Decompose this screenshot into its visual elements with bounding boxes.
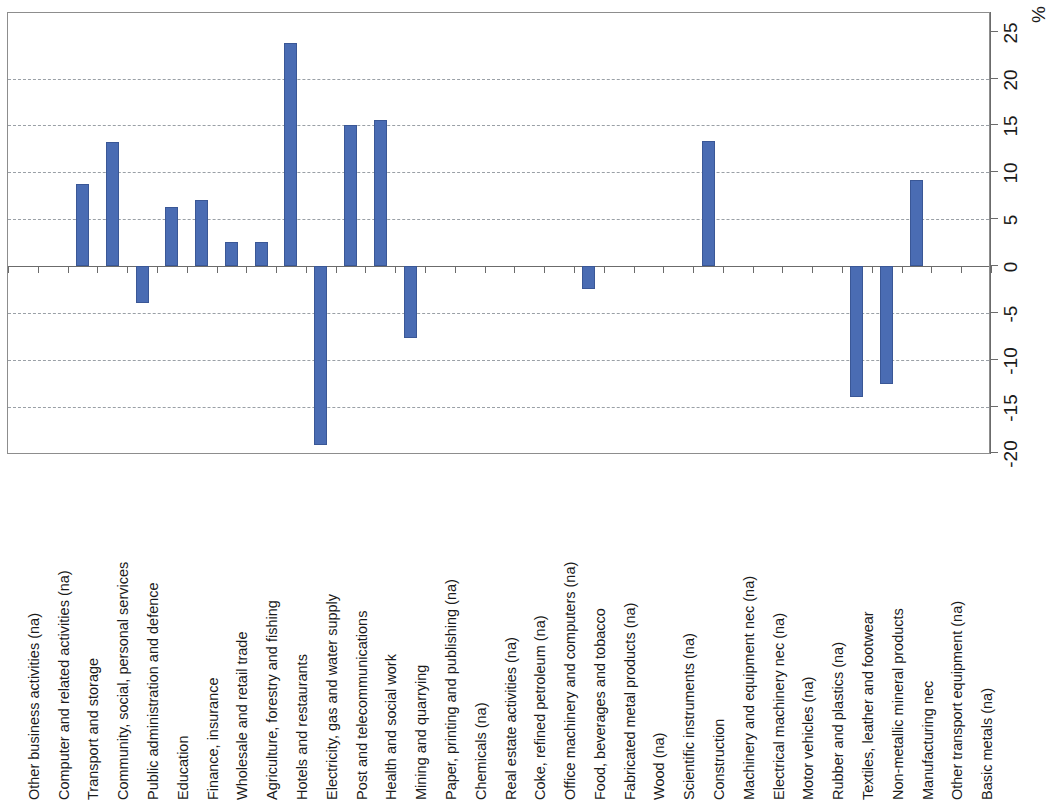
x-category-label: Paper, printing and publishing (na) <box>444 579 459 800</box>
bar <box>314 266 327 445</box>
x-category-label: Coke, refined petroleum (na) <box>533 615 548 800</box>
bar <box>165 207 178 266</box>
y-tick-label: 5 <box>1000 215 1022 226</box>
y-tick-label: -15 <box>1000 394 1022 421</box>
x-category-label: Textiles, leather and footwear <box>861 611 876 800</box>
y-tick-label: 20 <box>1000 69 1022 90</box>
x-category-label: Education <box>176 736 191 801</box>
plot-area <box>7 12 990 454</box>
y-tick-label: 10 <box>1000 163 1022 184</box>
x-category-label: Basic metals (na) <box>980 688 995 800</box>
x-category-label: Manufacturing nec <box>921 681 936 800</box>
y-tick <box>990 31 998 32</box>
x-category-label: Transport and storage <box>86 658 101 800</box>
bar <box>136 266 149 303</box>
x-category-label: Office machinery and computers (na) <box>563 562 578 800</box>
bar <box>702 141 715 266</box>
x-category-label: Agriculture, forestry and fishing <box>265 600 280 800</box>
x-category-label: Other business activities (na) <box>27 613 42 800</box>
y-tick <box>990 359 998 360</box>
y-tick <box>990 312 998 313</box>
bar <box>582 266 595 289</box>
x-category-label: Electrical machinery nec (na) <box>772 613 787 800</box>
x-category-label: Public administration and defence <box>146 582 161 800</box>
bar <box>404 266 417 338</box>
x-category-label: Community, social, personal services <box>116 562 131 800</box>
y-tick <box>990 265 998 266</box>
bar <box>106 142 119 266</box>
x-category-label: Construction <box>712 719 727 800</box>
x-category-label: Rubber and plastics (na) <box>831 642 846 800</box>
x-category-label: Chemicals (na) <box>474 703 489 801</box>
bar <box>344 125 357 266</box>
bar <box>225 242 238 266</box>
y-tick-label: 25 <box>1000 22 1022 43</box>
x-category-label: Wood (na) <box>652 733 667 800</box>
x-category-label: Food, beverages and tobacco <box>593 608 608 800</box>
x-category-label: Hotels and restaurants <box>295 654 310 800</box>
x-tick <box>991 266 992 273</box>
y-tick <box>990 78 998 79</box>
bars-group <box>8 13 989 453</box>
y-tick <box>990 452 998 453</box>
y-tick-label: -10 <box>1000 347 1022 374</box>
x-category-label: Wholesale and retail trade <box>235 632 250 800</box>
y-axis-unit-label: % <box>1028 6 1050 23</box>
x-category-label: Non-metallic mineral products <box>891 608 906 800</box>
x-category-label: Electricity, gas and water supply <box>325 594 340 800</box>
x-category-label: Motor vehicles (na) <box>801 677 816 800</box>
y-tick-label: -5 <box>1000 305 1022 322</box>
x-category-label: Finance, insurance <box>206 677 221 800</box>
bar <box>910 180 923 266</box>
y-tick <box>990 218 998 219</box>
bar <box>195 200 208 266</box>
y-tick-label: 15 <box>1000 116 1022 137</box>
bar <box>284 43 297 266</box>
x-category-label: Fabricated metal products (na) <box>623 603 638 800</box>
x-axis-category-labels: Other business activities (na)Computer a… <box>0 456 1050 804</box>
y-tick <box>990 124 998 125</box>
x-category-label: Other transport equipment (na) <box>950 601 965 800</box>
bar <box>255 242 268 266</box>
x-category-label: Computer and related activities (na) <box>57 570 72 800</box>
x-category-label: Health and social work <box>384 654 399 800</box>
x-category-label: Machinery and equipment nec (na) <box>742 576 757 800</box>
bar <box>880 266 893 384</box>
x-category-label: Scientific instruments (na) <box>682 633 697 800</box>
x-category-label: Post and telecommunications <box>355 611 370 800</box>
bar <box>850 266 863 397</box>
bar-chart: -20-15-10-50510152025 % Other business a… <box>0 0 1050 804</box>
x-category-label: Real estate activities (na) <box>504 637 519 800</box>
y-tick <box>990 406 998 407</box>
bar <box>76 184 89 266</box>
x-category-label: Mining and quarrying <box>414 665 429 800</box>
y-tick-label: 0 <box>1000 262 1022 273</box>
y-tick <box>990 171 998 172</box>
bar <box>374 120 387 266</box>
